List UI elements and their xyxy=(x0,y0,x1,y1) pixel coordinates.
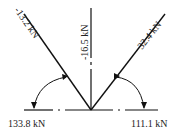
right-angle-arc xyxy=(116,77,144,108)
left-horizontal-label: 133.8 kN xyxy=(8,118,45,129)
left-angle-arc xyxy=(34,77,66,108)
vertical-label: -16.5 kN xyxy=(79,24,90,60)
right-horizontal-label: 111.1 kN xyxy=(131,118,167,129)
right-arrowhead-icon xyxy=(141,102,147,109)
joint-force-diagram: -13.2 kN -16.5 kN 32.4 kN 133.8 kN 111.1… xyxy=(0,0,181,136)
left-arrowhead-icon xyxy=(31,102,37,109)
right-diagonal-label: 32.4 kN xyxy=(135,19,164,51)
left-diagonal-label: -13.2 kN xyxy=(12,5,41,40)
